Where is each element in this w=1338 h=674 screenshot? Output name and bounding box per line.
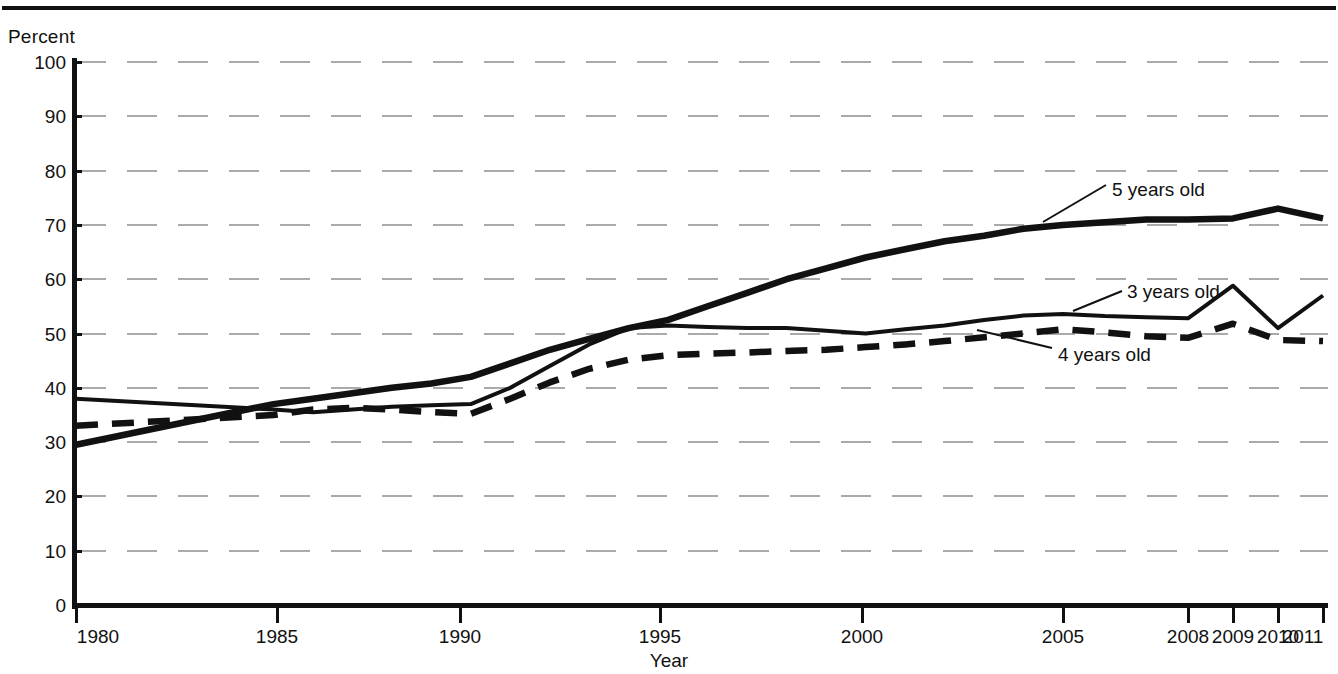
y-tick-label: 20	[2, 487, 66, 506]
y-tick-label: 50	[2, 325, 66, 344]
x-tick-label: 1995	[639, 627, 681, 646]
x-tick-mark	[75, 606, 78, 623]
y-tick-label: 40	[2, 379, 66, 398]
y-tick-label: 100	[2, 53, 66, 72]
x-tick-mark	[659, 606, 662, 623]
y-tick-label: 80	[2, 162, 66, 181]
x-axis-label: Year	[0, 650, 1338, 672]
x-tick-mark	[1187, 606, 1190, 623]
y-tick-label-column: 0102030405060708090100	[0, 0, 66, 674]
x-tick-label: 2009	[1212, 627, 1254, 646]
gridline	[76, 115, 1328, 117]
y-tick-mark	[72, 115, 82, 118]
gridline	[76, 387, 1328, 389]
y-tick-mark	[72, 495, 82, 498]
y-tick-mark	[72, 333, 82, 336]
x-tick-mark	[861, 606, 864, 623]
y-tick-mark	[72, 550, 82, 553]
gridline	[76, 441, 1328, 443]
gridline	[76, 278, 1328, 280]
y-tick-mark	[72, 278, 82, 281]
gridline	[76, 224, 1328, 226]
x-tick-label: 2005	[1042, 627, 1084, 646]
y-tick-label: 70	[2, 216, 66, 235]
y-tick-mark	[72, 61, 82, 64]
series-label-5-years-old: 5 years old	[1112, 180, 1205, 199]
x-tick-label: 1990	[439, 627, 481, 646]
x-tick-label: 2000	[841, 627, 883, 646]
y-tick-label: 0	[2, 596, 66, 615]
y-tick-mark	[72, 387, 82, 390]
horizontal-rule	[2, 6, 1336, 10]
x-tick-mark	[276, 606, 279, 623]
y-tick-label: 30	[2, 433, 66, 452]
gridline	[76, 170, 1328, 172]
series-label-3-years-old: 3 years old	[1127, 282, 1220, 301]
gridline	[76, 61, 1328, 63]
x-tick-label: 1985	[256, 627, 298, 646]
x-tick-mark	[1232, 606, 1235, 623]
y-tick-mark	[72, 224, 82, 227]
y-tick-mark	[72, 441, 82, 444]
x-tick-label: 2008	[1167, 627, 1209, 646]
x-tick-label: 1980	[77, 627, 119, 646]
x-tick-mark	[1322, 606, 1325, 623]
x-tick-mark	[1062, 606, 1065, 623]
gridline	[76, 333, 1328, 335]
gridline	[76, 495, 1328, 497]
x-tick-mark	[1277, 606, 1280, 623]
y-tick-label: 10	[2, 542, 66, 561]
x-tick-mark	[459, 606, 462, 623]
series-label-4-years-old: 4 years old	[1058, 345, 1151, 364]
y-tick-label: 60	[2, 270, 66, 289]
gridline	[76, 550, 1328, 552]
plot-area	[76, 62, 1328, 605]
header-rule-container	[0, 0, 1338, 14]
y-tick-label: 90	[2, 107, 66, 126]
x-tick-label: 2011	[1283, 627, 1324, 646]
y-tick-mark	[72, 170, 82, 173]
